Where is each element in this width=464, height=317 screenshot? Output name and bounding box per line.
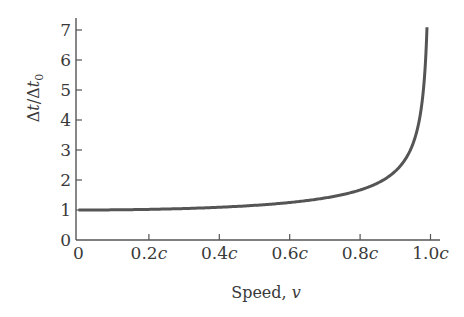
gamma-curve <box>79 27 427 210</box>
x-tick-label: 0.4c <box>201 243 238 263</box>
y-tick-label: 3 <box>60 140 71 160</box>
y-tick-label: 0 <box>60 230 71 250</box>
x-tick-label: 0.2c <box>131 243 168 263</box>
x-axis-ticks: 00.2c0.4c0.6c0.8c1.0c <box>73 234 449 263</box>
y-tick-label: 2 <box>60 170 71 190</box>
y-tick-label: 4 <box>60 110 71 130</box>
y-tick-label: 5 <box>60 80 71 100</box>
x-axis-label: Speed, v <box>231 283 301 302</box>
x-tick-label: 0.8c <box>342 243 379 263</box>
x-tick-label: 0.6c <box>271 243 308 263</box>
y-tick-label: 7 <box>60 20 71 40</box>
axes <box>76 18 440 240</box>
time-dilation-chart: 01234567 00.2c0.4c0.6c0.8c1.0c Speed, v … <box>0 0 464 317</box>
data-series-line <box>79 27 427 210</box>
y-axis-ticks: 01234567 <box>60 20 82 250</box>
x-tick-label: 0 <box>73 243 84 263</box>
y-tick-label: 6 <box>60 50 71 70</box>
y-axis-label: Δt/Δt0 <box>24 74 46 122</box>
x-tick-label: 1.0c <box>412 243 449 263</box>
y-tick-label: 1 <box>60 200 71 220</box>
